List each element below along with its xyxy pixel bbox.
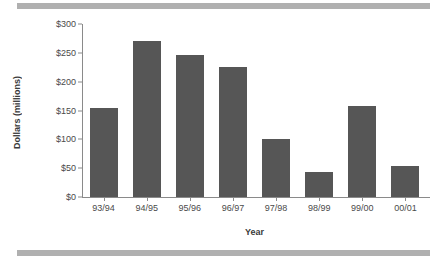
x-axis-tick-mark (276, 197, 277, 201)
y-axis-tick-label: $300 (56, 19, 76, 29)
x-axis-tick-label: 95/96 (179, 203, 202, 213)
decorative-band-bottom (17, 250, 430, 256)
y-axis-tick-label: $50 (61, 163, 76, 173)
decorative-band-top (17, 3, 430, 9)
bar (305, 172, 333, 197)
bar-slot (125, 24, 168, 197)
y-axis-title: Dollars (millions) (10, 50, 24, 175)
bar (348, 106, 376, 197)
x-axis-tick-label: 93/94 (92, 203, 115, 213)
bar-series (82, 24, 427, 197)
bar-slot (82, 24, 125, 197)
bar-slot (298, 24, 341, 197)
y-axis-tick-label: $0 (66, 192, 76, 202)
x-axis-tick-mark (104, 197, 105, 201)
bar (219, 67, 247, 197)
bar-chart-figure: Dollars (millions) $0$50$100$150$200$250… (0, 0, 447, 261)
x-axis-tick-label: 96/97 (222, 203, 245, 213)
bar-slot (384, 24, 427, 197)
bar-slot (255, 24, 298, 197)
x-axis-tick-label: 99/00 (351, 203, 374, 213)
bar (133, 41, 161, 197)
x-axis-tick-label: 00/01 (394, 203, 417, 213)
bar (262, 139, 290, 197)
x-axis-tick-mark (147, 197, 148, 201)
bar (90, 108, 118, 197)
y-axis-tick-label: $250 (56, 48, 76, 58)
x-axis-tick-mark (233, 197, 234, 201)
bar-slot (168, 24, 211, 197)
x-axis-tick-mark (190, 197, 191, 201)
bar (391, 166, 419, 197)
bar-slot (341, 24, 384, 197)
x-axis-tick-label: 94/95 (135, 203, 158, 213)
bar-slot (211, 24, 254, 197)
x-axis-tick-mark (319, 197, 320, 201)
x-axis-title: Year (82, 227, 427, 237)
x-axis-line (82, 197, 430, 198)
x-axis-tick-label: 98/99 (308, 203, 331, 213)
x-axis-tick-label: 97/98 (265, 203, 288, 213)
bar (176, 55, 204, 197)
plot-area: $0$50$100$150$200$250$300 (82, 24, 427, 197)
y-axis-tick-label: $150 (56, 106, 76, 116)
y-axis-tick-label: $100 (56, 134, 76, 144)
x-axis-tick-mark (362, 197, 363, 201)
y-axis-tick-label: $200 (56, 77, 76, 87)
x-axis-tick-mark (405, 197, 406, 201)
